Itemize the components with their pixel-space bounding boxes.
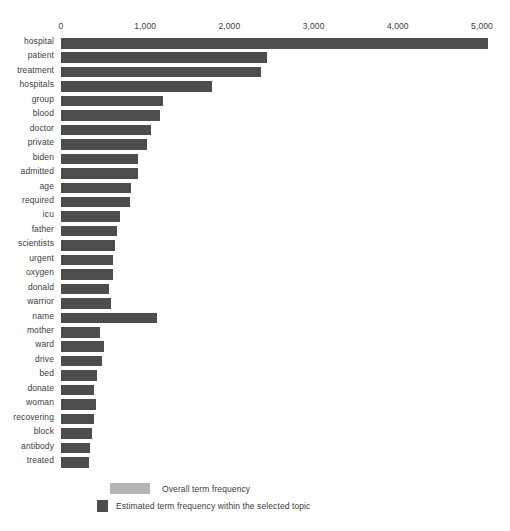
bar-topic-frequency [61, 414, 94, 425]
bar-topic-frequency [61, 139, 147, 150]
bar-topic-frequency [61, 154, 138, 165]
x-tick-label: 4,000 [387, 21, 409, 31]
bar-topic-frequency [61, 269, 113, 280]
y-category-label: icu [43, 209, 54, 219]
bar-topic-frequency [61, 457, 89, 468]
bar-topic-frequency [61, 110, 160, 121]
y-category-label: warrior [27, 296, 54, 306]
bar-topic-frequency [61, 96, 163, 107]
bar-topic-frequency [61, 284, 109, 295]
y-category-label: biden [33, 152, 54, 162]
bar-topic-frequency [61, 385, 94, 396]
bar-topic-frequency [61, 356, 102, 367]
x-tick-label: 5,000 [471, 21, 493, 31]
y-category-label: oxygen [26, 267, 54, 277]
y-category-label: block [34, 426, 54, 436]
y-category-label: group [32, 94, 54, 104]
bar-topic-frequency [61, 443, 90, 454]
legend-label: Overall term frequency [162, 484, 250, 494]
bar-topic-frequency [61, 67, 261, 78]
y-category-label: recovering [13, 412, 54, 422]
x-tick-label: 2,000 [219, 21, 241, 31]
y-axis-category-labels: hospitalpatienttreatmenthospitalsgroupbl… [0, 0, 58, 531]
y-category-label: doctor [30, 123, 54, 133]
legend-label: Estimated term frequency within the sele… [116, 501, 310, 511]
bar-topic-frequency [61, 298, 111, 309]
bar-topic-frequency [61, 81, 212, 92]
term-frequency-bar-chart: 01,0002,0003,0004,0005,000 hospitalpatie… [0, 0, 510, 531]
bar-topic-frequency [61, 38, 488, 49]
bar-topic-frequency [61, 370, 97, 381]
y-category-label: treatment [17, 65, 54, 75]
bar-topic-frequency [61, 341, 104, 352]
y-category-label: hospitals [20, 79, 54, 89]
bar-topic-frequency [61, 240, 115, 251]
x-tick-label: 0 [59, 21, 64, 31]
bar-topic-frequency [61, 197, 130, 208]
bar-topic-frequency [61, 313, 157, 324]
legend-color-swatch [97, 500, 108, 512]
bar-topic-frequency [61, 52, 267, 63]
bar-topic-frequency [61, 125, 151, 136]
y-category-label: antibody [21, 441, 54, 451]
y-category-label: ward [35, 339, 54, 349]
y-category-label: treated [27, 455, 54, 465]
y-category-label: mother [27, 325, 54, 335]
bar-topic-frequency [61, 211, 120, 222]
y-category-label: donald [28, 282, 54, 292]
bar-topic-frequency [61, 226, 117, 237]
y-category-label: bed [40, 368, 54, 378]
bar-topic-frequency [61, 183, 131, 194]
y-category-label: admitted [21, 166, 54, 176]
y-category-label: father [32, 224, 54, 234]
legend-color-swatch [110, 483, 150, 494]
y-category-label: patient [28, 50, 54, 60]
bar-topic-frequency [61, 428, 92, 439]
bar-topic-frequency [61, 168, 138, 179]
y-category-label: woman [26, 397, 54, 407]
y-category-label: urgent [29, 253, 54, 263]
y-category-label: scientists [18, 238, 54, 248]
bar-topic-frequency [61, 327, 100, 338]
bar-topic-frequency [61, 399, 96, 410]
bar-topic-frequency [61, 255, 113, 266]
y-category-label: private [28, 137, 54, 147]
y-category-label: required [22, 195, 54, 205]
y-category-label: hospital [24, 36, 54, 46]
y-category-label: name [32, 311, 54, 321]
x-tick-label: 3,000 [303, 21, 325, 31]
x-tick-label: 1,000 [134, 21, 156, 31]
y-category-label: donate [27, 383, 54, 393]
y-category-label: age [40, 181, 54, 191]
legend-entry[interactable]: Estimated term frequency within the sele… [97, 500, 310, 512]
y-category-label: blood [33, 108, 54, 118]
y-category-label: drive [35, 354, 54, 364]
legend-entry[interactable]: Overall term frequency [110, 483, 250, 494]
